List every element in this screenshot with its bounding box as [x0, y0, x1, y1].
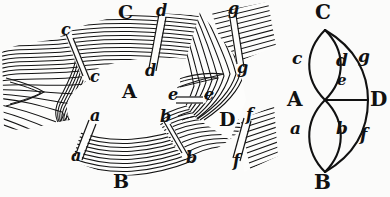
graph-edge-label-e: e [337, 73, 347, 88]
graph-node-label-a: A [287, 89, 303, 109]
cut-label-b-lower: b [186, 150, 197, 166]
graph-edge-label-d: d [336, 52, 348, 69]
graph-edge-a[interactable] [309, 100, 325, 172]
region-label-a: A [122, 82, 137, 101]
graph-edge-label-g: g [358, 48, 370, 65]
graph-node-label-d: D [370, 89, 387, 109]
region-label-c: C [118, 3, 133, 22]
region-label-b: B [113, 172, 129, 191]
graph-edge-label-c: c [292, 50, 302, 67]
cut-label-a-upper: a [90, 108, 100, 124]
graph-edge-label-b: b [336, 120, 348, 137]
cut-label-e-left: e [168, 87, 178, 103]
region-label-d: D [219, 110, 235, 129]
graph-edge-label-f: f [360, 126, 367, 143]
figure-canvas: A B C D c c d d g g e e a a b b f f C A … [0, 0, 390, 197]
cut-label-b-upper: b [160, 109, 171, 125]
cut-label-c-upper: c [61, 22, 71, 38]
cut-label-c-lower: c [90, 69, 100, 85]
graph-edge-label-a: a [290, 120, 301, 137]
cut-label-f-lower: f [233, 153, 240, 169]
graph-node-label-b: B [314, 172, 331, 192]
cut-label-e-right: e [204, 87, 214, 103]
graph-node-label-c: C [315, 2, 331, 22]
cut-label-a-lower: a [71, 148, 81, 164]
cut-label-d-upper: d [156, 3, 167, 19]
cut-label-g-upper: g [228, 1, 239, 17]
cut-label-f-upper: f [246, 107, 253, 123]
cut-label-d-lower: d [145, 63, 156, 79]
cut-label-g-lower: g [237, 60, 248, 76]
graph-edge-c[interactable] [309, 30, 325, 100]
